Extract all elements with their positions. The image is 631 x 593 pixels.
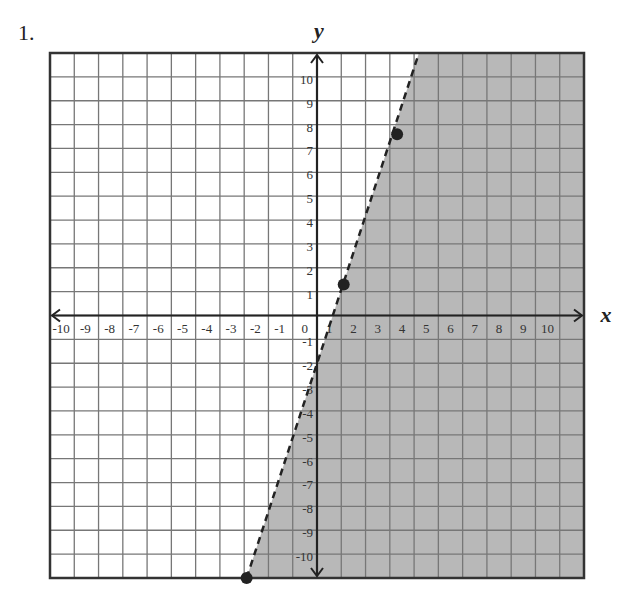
x-tick-label: 4	[399, 321, 406, 336]
y-tick-label: 10	[300, 72, 313, 87]
y-tick-label: -6	[302, 454, 313, 469]
y-tick-label: -4	[302, 406, 313, 421]
y-tick-label: 8	[307, 120, 314, 135]
x-tick-label: 8	[496, 321, 503, 336]
y-tick-label: -8	[302, 501, 313, 516]
y-tick-label: 1	[307, 287, 314, 302]
x-tick-label: -6	[153, 321, 164, 336]
x-tick-label: 3	[374, 321, 381, 336]
x-tick-label: 2	[350, 321, 357, 336]
x-tick-label: -8	[104, 321, 115, 336]
x-tick-label: -4	[201, 321, 212, 336]
y-tick-label: 5	[307, 191, 314, 206]
x-axis-label: x	[600, 302, 612, 327]
x-tick-label: -7	[129, 321, 140, 336]
x-tick-label: 7	[472, 321, 479, 336]
y-tick-label: 9	[307, 96, 314, 111]
y-tick-label: -9	[302, 525, 313, 540]
y-tick-label: -7	[302, 477, 313, 492]
y-tick-label: 4	[307, 215, 314, 230]
y-tick-label: -10	[296, 549, 313, 564]
y-tick-label: -5	[302, 430, 313, 445]
y-tick-label: 6	[307, 167, 314, 182]
x-tick-label: 10	[541, 321, 554, 336]
y-tick-label: 7	[307, 143, 314, 158]
inequality-graph: -10-9-8-7-6-5-4-3-2-10123456789101098765…	[0, 0, 631, 593]
x-tick-label: 6	[447, 321, 454, 336]
data-point	[391, 128, 403, 140]
y-tick-label: 2	[307, 263, 314, 278]
x-tick-label: -1	[274, 321, 285, 336]
x-tick-label: -9	[80, 321, 91, 336]
x-tick-label: 0	[302, 321, 309, 336]
x-tick-label: -2	[250, 321, 261, 336]
x-tick-label: 5	[423, 321, 430, 336]
y-tick-label: -2	[302, 358, 313, 373]
y-axis-label: y	[311, 18, 324, 43]
x-tick-label: -3	[226, 321, 237, 336]
x-tick-label: 9	[520, 321, 527, 336]
y-tick-label: -1	[302, 334, 313, 349]
data-point	[338, 278, 350, 290]
data-point	[241, 572, 253, 584]
x-tick-label: -5	[177, 321, 188, 336]
y-tick-label: 3	[307, 239, 314, 254]
x-tick-label: -10	[52, 321, 69, 336]
